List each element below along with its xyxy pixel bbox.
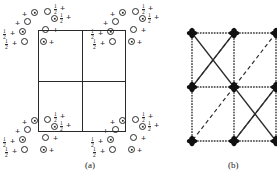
open-circle-icon: [24, 126, 31, 133]
dotted-circle-icon: [139, 123, 146, 130]
open-circle-icon: [21, 38, 28, 45]
plus-symbol: +: [53, 26, 58, 35]
open-circle-icon: [112, 126, 119, 133]
plus-symbol: +: [49, 38, 54, 47]
plus-symbol: +: [141, 26, 146, 35]
height-fraction-label: 12: [148, 13, 151, 25]
dotted-circle-icon: [51, 123, 58, 130]
open-circle-icon: [112, 18, 119, 25]
plus-symbol: +: [10, 137, 15, 146]
lattice-node: [271, 28, 277, 38]
height-fraction-label: 12: [60, 121, 63, 133]
open-circle-icon: [109, 38, 116, 45]
open-circle-icon: [130, 134, 137, 141]
height-fraction-label: 12: [148, 121, 151, 133]
plus-symbol: +: [12, 147, 17, 156]
figure-root: +12++12+12++12+++12++12+12++12+++12++12+…: [0, 0, 277, 182]
height-fraction-label: 12: [93, 147, 96, 159]
lattice-node: [271, 82, 277, 92]
height-fraction-label: 12: [54, 4, 57, 16]
dotted-circle-icon: [139, 15, 146, 22]
dotted-circle-icon: [31, 9, 38, 16]
dotted-circle-icon: [31, 117, 38, 124]
height-fraction-label: 12: [142, 4, 145, 16]
plus-symbol: +: [100, 147, 105, 156]
plus-symbol: +: [154, 13, 159, 22]
dotted-circle-icon: [107, 136, 114, 143]
plus-symbol: +: [154, 121, 159, 130]
height-fraction-label: 12: [60, 13, 63, 25]
lattice-node: [229, 28, 239, 38]
open-circle-icon: [132, 8, 139, 15]
dotted-circle-icon: [19, 136, 26, 143]
dotted-circle-icon: [128, 38, 135, 45]
lattice-node: [229, 136, 239, 146]
plus-symbol: +: [100, 39, 105, 48]
height-fraction-label: 12: [54, 112, 57, 124]
open-circle-icon: [42, 26, 49, 33]
lattice-node: [187, 82, 197, 92]
plus-symbol: +: [103, 127, 108, 136]
plus-symbol: +: [137, 38, 142, 47]
height-fraction-label: 12: [5, 39, 8, 51]
lattice-diagonal-edge-dashed: [234, 33, 276, 87]
panel-b: [170, 0, 277, 182]
lattice-node: [271, 136, 277, 146]
dotted-circle-icon: [119, 9, 126, 16]
open-circle-icon: [24, 18, 31, 25]
height-fraction-label: 12: [142, 112, 145, 124]
plus-symbol: +: [66, 13, 71, 22]
open-circle-icon: [132, 116, 139, 123]
panel-a: +12++12+12++12+++12++12+12++12+++12++12+…: [0, 0, 170, 182]
lattice-node: [229, 82, 239, 92]
open-circle-icon: [42, 134, 49, 141]
dotted-circle-icon: [40, 146, 47, 153]
open-circle-icon: [130, 26, 137, 33]
dotted-circle-icon: [107, 28, 114, 35]
lattice-diagonal-edge-dashed: [192, 87, 234, 141]
plus-symbol: +: [15, 127, 20, 136]
dotted-circle-icon: [40, 38, 47, 45]
plus-symbol: +: [98, 137, 103, 146]
height-fraction-label: 12: [5, 147, 8, 159]
plus-symbol: +: [12, 39, 17, 48]
lattice-node: [187, 28, 197, 38]
dotted-circle-icon: [128, 146, 135, 153]
caption-panel-a: (a): [85, 160, 95, 170]
plus-symbol: +: [53, 134, 58, 143]
lattice-node: [187, 136, 197, 146]
unit-cell-horizontal-divider: [39, 81, 125, 82]
dotted-circle-icon: [19, 28, 26, 35]
dotted-circle-icon: [51, 15, 58, 22]
plus-symbol: +: [141, 134, 146, 143]
plus-symbol: +: [10, 29, 15, 38]
plus-symbol: +: [49, 146, 54, 155]
caption-panel-b: (b): [228, 160, 239, 170]
open-circle-icon: [44, 8, 51, 15]
plus-symbol: +: [103, 19, 108, 28]
height-fraction-label: 12: [93, 39, 96, 51]
plus-symbol: +: [137, 146, 142, 155]
plus-symbol: +: [66, 121, 71, 130]
plus-symbol: +: [98, 29, 103, 38]
open-circle-icon: [109, 146, 116, 153]
plus-symbol: +: [15, 19, 20, 28]
open-circle-icon: [44, 116, 51, 123]
dotted-circle-icon: [119, 117, 126, 124]
lattice-network: [170, 0, 277, 182]
open-circle-icon: [21, 146, 28, 153]
